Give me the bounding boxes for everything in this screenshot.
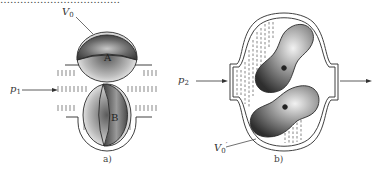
- v0-leader-line: [76, 17, 93, 34]
- panel-b: [196, 13, 372, 151]
- panel-a: [22, 17, 156, 151]
- label-v0: V0: [62, 7, 74, 20]
- p1-arrowhead-icon: [52, 88, 58, 92]
- p2-arrowhead-icon: [222, 79, 228, 83]
- label-p1: p1: [10, 84, 21, 97]
- rotor-label-b: B: [111, 113, 118, 123]
- caption-b: b): [274, 155, 283, 164]
- pump-diagram: [0, 0, 375, 177]
- rotor-b: [83, 84, 131, 146]
- outlet-arrowhead-icon: [366, 79, 372, 83]
- rotor-shaft-upper: [282, 66, 287, 71]
- rotor-shaft-lower: [283, 105, 288, 110]
- rotor-label-a: A: [104, 53, 111, 63]
- caption-a: a): [103, 155, 112, 164]
- label-p2: p2: [178, 75, 189, 88]
- v0-prime-leader-line: [226, 139, 256, 147]
- label-v0-prime: V0′: [214, 140, 227, 156]
- lobe-rotor-upper: [255, 24, 313, 92]
- lobe-rotor-lower: [250, 86, 319, 137]
